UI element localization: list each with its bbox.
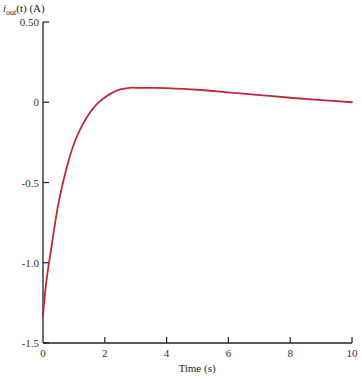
data-line	[43, 88, 352, 316]
y-tick-label: 0	[34, 96, 40, 108]
y-tick-label: 0.50	[20, 16, 40, 28]
x-tick-label: 10	[347, 347, 359, 359]
y-tick-label: -0.5	[22, 177, 40, 189]
y-tick-label: -1.0	[22, 257, 40, 269]
y-axis-title: iout(t) (A)	[3, 2, 45, 17]
y-tick-label: -1.5	[22, 337, 40, 349]
svg-text:iout(t) (A): iout(t) (A)	[3, 2, 45, 17]
axes	[43, 22, 352, 343]
y-axis-title-rest: (t) (A)	[16, 2, 45, 15]
x-tick-label: 6	[226, 347, 232, 359]
x-tick-label: 4	[164, 347, 170, 359]
chart: iout(t) (A) 0.500-0.5-1.0-1.5 0246810 Ti…	[0, 0, 362, 379]
x-tick-label: 0	[40, 347, 46, 359]
x-axis-ticks: 0246810	[40, 337, 358, 359]
x-tick-label: 8	[287, 347, 293, 359]
x-axis-title: Time (s)	[178, 362, 216, 375]
x-tick-label: 2	[102, 347, 108, 359]
